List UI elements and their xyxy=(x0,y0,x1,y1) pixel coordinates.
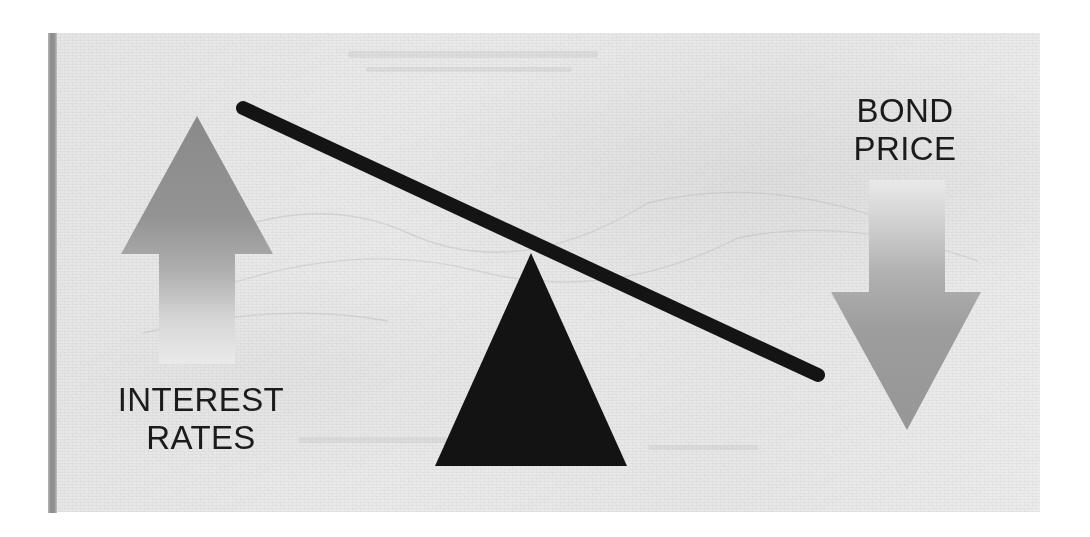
interest-rates-line2: RATES xyxy=(146,419,256,456)
bond-price-line1: BOND xyxy=(857,92,954,129)
interest-rates-line1: INTEREST xyxy=(118,381,284,418)
interest-rates-label: INTERESTRATES xyxy=(96,381,306,458)
bond-price-line2: PRICE xyxy=(854,130,957,167)
figure-canvas: INTERESTRATES BONDPRICE xyxy=(0,0,1090,537)
triangle-fulcrum xyxy=(435,253,627,466)
bond-price-label: BONDPRICE xyxy=(805,92,1005,169)
